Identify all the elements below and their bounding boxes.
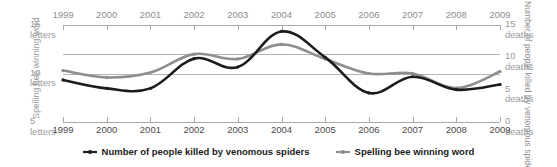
x-axis-year-label: 1999 (43, 9, 83, 20)
data-point-marker (149, 87, 152, 90)
left-axis-tick-10: 10 letters (30, 68, 64, 89)
x-axis-year-label: 2004 (262, 124, 302, 135)
right-axis-tick-10-unit: deaths (505, 62, 547, 73)
data-point-marker (367, 72, 370, 75)
x-axis-year-label: 2006 (349, 124, 389, 135)
x-axis-year-label: 2003 (218, 9, 258, 20)
x-axis-year-label: 1999 (43, 124, 83, 135)
legend-line-marker-icon (83, 148, 97, 156)
right-axis-tick-15: 15 deaths (505, 19, 547, 40)
bottom-year-labels: 1999200020012002200320042005200620072008… (63, 124, 500, 136)
right-axis-tick-15-value: 15 (505, 19, 547, 30)
left-axis-tick-15-value: 15 (30, 19, 64, 30)
data-point-marker (280, 43, 283, 46)
series-line-spiders (63, 31, 500, 93)
data-point-marker (236, 57, 239, 60)
data-point-marker (498, 70, 501, 73)
x-axis-year-label: 2005 (305, 9, 345, 20)
x-axis-year-label: 2006 (349, 9, 389, 20)
x-axis-year-label: 2001 (130, 124, 170, 135)
legend-item-spelling-bee: Spelling bee winning word (336, 146, 475, 157)
right-axis-tick-10: 10 deaths (505, 51, 547, 72)
x-axis-year-label: 2004 (262, 9, 302, 20)
right-axis-tick-5: 5 deaths (505, 84, 547, 105)
data-point-marker (411, 72, 414, 75)
x-axis-year-label: 2009 (480, 124, 520, 135)
bottom-axis-tick (500, 117, 501, 122)
x-axis-year-label: 2002 (174, 9, 214, 20)
data-point-marker (280, 30, 283, 33)
x-axis-year-label: 2008 (436, 9, 476, 20)
data-point-marker (105, 76, 108, 79)
left-axis-tick-15: 15 letters (30, 19, 64, 40)
data-point-marker (193, 53, 196, 56)
x-axis-year-label: 2002 (174, 124, 214, 135)
legend-line-marker-icon (336, 148, 350, 156)
data-point-marker (498, 83, 501, 86)
x-axis-year-label: 2008 (436, 124, 476, 135)
x-axis-year-label: 2005 (305, 124, 345, 135)
data-point-marker (236, 65, 239, 68)
left-axis-tick-15-unit: letters (30, 30, 64, 41)
data-point-marker (324, 56, 327, 59)
series-layer (63, 25, 500, 122)
data-point-marker (105, 87, 108, 90)
data-point-marker (149, 71, 152, 74)
x-axis-year-label: 2007 (393, 124, 433, 135)
top-year-labels: 1999200020012002200320042005200620072008… (63, 9, 500, 21)
x-axis-year-label: 2009 (480, 9, 520, 20)
x-axis-year-label: 2003 (218, 124, 258, 135)
legend-label-spelling-bee: Spelling bee winning word (355, 146, 475, 157)
data-point-marker (411, 75, 414, 78)
right-axis-tick-15-unit: deaths (505, 30, 547, 41)
x-axis-year-label: 2000 (87, 124, 127, 135)
left-axis-tick-10-unit: letters (30, 78, 64, 89)
legend-item-spiders: Number of people killed by venomous spid… (83, 146, 310, 157)
data-point-marker (193, 57, 196, 60)
bottom-axis-line (63, 122, 500, 123)
x-axis-year-label: 2000 (87, 9, 127, 20)
data-point-marker (455, 88, 458, 91)
x-axis-year-label: 2001 (130, 9, 170, 20)
spurious-correlation-chart: Spelling bee winning word Number of peop… (0, 0, 557, 167)
legend-label-spiders: Number of people killed by venomous spid… (102, 146, 310, 157)
right-axis-tick-5-unit: deaths (505, 94, 547, 105)
chart-legend: Number of people killed by venomous spid… (0, 146, 557, 157)
top-axis-tick (500, 25, 501, 30)
x-axis-year-label: 2007 (393, 9, 433, 20)
data-point-marker (61, 78, 64, 81)
data-point-marker (367, 91, 370, 94)
data-point-marker (61, 69, 64, 72)
